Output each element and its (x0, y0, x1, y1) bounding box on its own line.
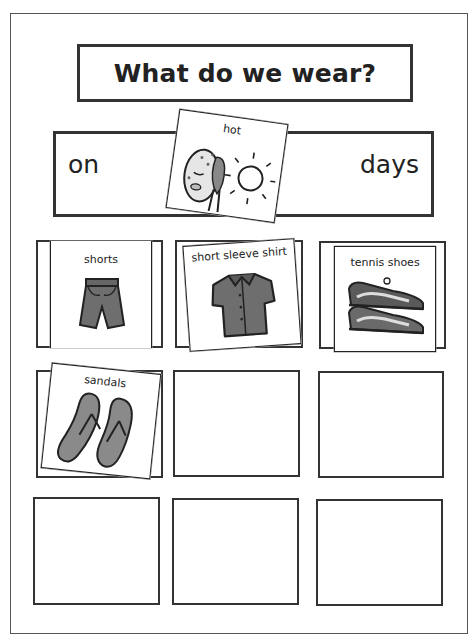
hot-weather-icon (171, 132, 280, 220)
card-label: shorts (51, 253, 151, 266)
page-title: What do we wear? (114, 59, 376, 88)
slot-6[interactable] (318, 371, 444, 478)
slot-8[interactable] (172, 498, 299, 605)
tennis-shoes-icon (343, 275, 429, 345)
card-label: short sleeve shirt (184, 244, 295, 265)
sentence-prefix: on (68, 150, 99, 179)
shirt-icon (206, 265, 281, 342)
slot-9[interactable] (316, 499, 443, 606)
sentence-suffix: days (360, 150, 419, 179)
card-sandals[interactable]: sandals (41, 363, 161, 480)
card-shorts[interactable]: shorts (50, 241, 152, 348)
card-tennis-shoes[interactable]: tennis shoes (334, 246, 436, 352)
sandals-icon (52, 387, 146, 474)
shorts-icon (72, 275, 132, 335)
card-short-sleeve-shirt[interactable]: short sleeve shirt (182, 238, 301, 352)
card-label: tennis shoes (335, 256, 435, 269)
slot-7[interactable] (33, 497, 160, 605)
weather-card-hot[interactable]: hot (166, 109, 289, 223)
slot-5[interactable] (173, 370, 300, 477)
title-box: What do we wear? (77, 44, 413, 102)
